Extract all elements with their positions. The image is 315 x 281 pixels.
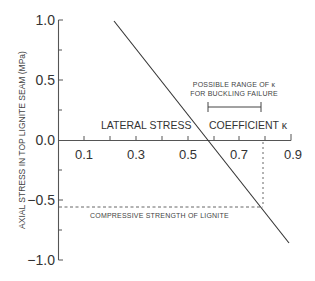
y-tick-label: 0.0 [36, 132, 56, 148]
compressive-strength-label: COMPRESSIVE STRENGTH OF LIGNITE [90, 212, 229, 219]
x-ticks [84, 134, 291, 141]
y-tick-label: −0.5 [27, 192, 55, 208]
range-annotation-line2: FOR BUCKLING FAILURE [190, 90, 278, 97]
y-axis-title: AXIAL STRESS IN TOP LIGNITE SEAM (MPa) [17, 51, 27, 229]
x-tick-label: 0.1 [75, 147, 93, 162]
x-tick-label: 0.7 [230, 147, 248, 162]
x-tick-label: 0.9 [284, 147, 302, 162]
range-bar [208, 102, 261, 112]
axial-stress-line [114, 21, 289, 243]
x-axis-title-right: COEFFICIENT κ [209, 119, 288, 131]
y-tick-label: 1.0 [36, 12, 56, 28]
x-tick-label: 0.5 [179, 147, 197, 162]
range-annotation-line1: POSSIBLE RANGE OF κ [193, 81, 276, 88]
y-tick-label: −1.0 [27, 252, 55, 268]
x-axis-title-left: LATERAL STRESS [101, 119, 191, 131]
chart: 1.0 0.5 0.0 −0.5 −1.0 0.1 0.3 0.5 0.7 0.… [0, 0, 315, 281]
x-tick-label: 0.3 [127, 147, 145, 162]
y-tick-label: 0.5 [36, 72, 56, 88]
